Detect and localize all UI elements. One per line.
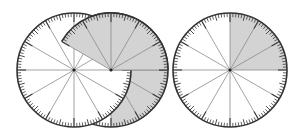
center-dot xyxy=(109,68,112,71)
right-dial xyxy=(173,13,287,127)
center-dot xyxy=(228,68,231,71)
center-dot xyxy=(72,68,75,71)
dials-canvas xyxy=(0,0,301,139)
fraction-dials-diagram: Fraction dials xyxy=(0,0,301,139)
